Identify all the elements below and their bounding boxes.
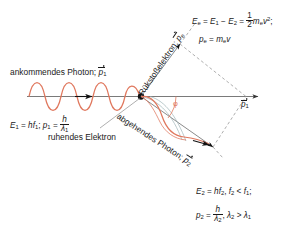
formula-h-numerator-2: h: [216, 205, 221, 214]
compton-scattering-diagram: ankommendes Photon; p1 E1 = hf1; p1 = hλ…: [0, 0, 293, 228]
formula-lambda2-subscript: 2: [218, 218, 221, 224]
formula-pe-me: m: [216, 35, 223, 44]
formula-greater-than: >: [234, 211, 243, 220]
incoming-photon-symbol: p: [98, 67, 103, 77]
dashed-construction-line-top: [180, 44, 246, 97]
formula-less-than: <: [234, 187, 243, 196]
formula-hf2: hf: [214, 187, 221, 196]
momentum-axis-label: p1: [241, 101, 249, 110]
formula-Ee-equals: =: [201, 17, 210, 26]
momentum-axis-subscript: 1: [246, 103, 249, 109]
formula-h-numerator: h: [62, 115, 67, 124]
formula-hf1: hf: [28, 121, 35, 130]
resting-electron-label: ruhendes Elektron: [48, 133, 116, 142]
formula-Ee-minus: −: [219, 17, 228, 26]
formula-me-symbol: m: [253, 17, 260, 26]
electron-energy-formula: Ee = E1 − E2 = 12mev2;: [192, 12, 273, 29]
formula-lambda1-compare-subscript: 1: [248, 214, 251, 220]
momentum-axis-symbol: p: [241, 100, 246, 109]
incoming-photon-subscript: 1: [103, 71, 106, 77]
formula-pe-equals: =: [207, 35, 216, 44]
formula-pe-v: v: [226, 35, 230, 44]
scattering-angle-label: φ: [173, 100, 178, 108]
formula-equals-1: =: [19, 121, 28, 130]
formula-Ee-equals-2: =: [237, 17, 246, 26]
formula-equals-2: =: [51, 121, 60, 130]
incoming-photon-label-text: ankommendes Photon;: [10, 67, 98, 77]
outgoing-photon-momentum-formula: p2 = hλ2, λ2 > λ1: [196, 206, 251, 224]
formula-p2-equals: =: [204, 211, 213, 220]
formula-h-over-lambda2: hλ2: [213, 206, 222, 224]
formula-E2-end: ;: [249, 187, 251, 196]
dashed-construction-line-lower-left: [213, 147, 223, 158]
electron-momentum-formula: pe = mev: [199, 36, 230, 45]
formula-E2-equals: =: [205, 187, 214, 196]
outgoing-photon-energy-formula: E2 = hf2, f2 < f1;: [196, 188, 252, 197]
incoming-photon-label: ankommendes Photon; p1: [10, 68, 106, 77]
formula-Ee-end: ;: [270, 17, 272, 26]
